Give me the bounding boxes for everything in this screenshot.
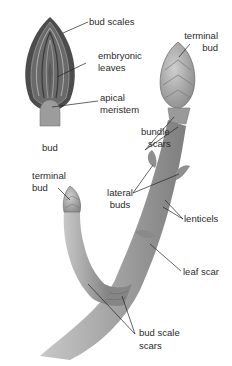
label-bud-scales: bud scales — [89, 16, 134, 27]
bud-section — [25, 17, 75, 126]
label-lateral-buds-line1: lateral — [100, 187, 140, 198]
label-leaf-scar: leaf scar — [183, 266, 219, 277]
label-bud-scale-scars-line2: scars — [139, 340, 162, 351]
label-bud-scale-scars-line1: bud scale — [139, 327, 180, 338]
label-terminal-bud-left-line1: terminal — [32, 170, 66, 181]
label-bud-caption: bud — [42, 142, 58, 153]
label-lateral-buds-line2: buds — [100, 199, 140, 210]
label-terminal-bud-top-line2: bud — [178, 42, 218, 53]
label-apical-meristem-line1: apical — [100, 92, 125, 103]
label-terminal-bud-left-line2: bud — [32, 182, 48, 193]
label-bundle-scars-line1: bundle — [141, 126, 170, 137]
label-embryonic-leaves-line1: embryonic — [98, 50, 142, 61]
label-terminal-bud-top-line1: terminal — [178, 30, 218, 41]
label-bundle-scars-line2: scars — [148, 138, 171, 149]
twig-anatomy-diagram: bud scales embryonic leaves apical meris… — [0, 0, 232, 366]
label-embryonic-leaves-line2: leaves — [98, 62, 125, 73]
label-lenticels: lenticels — [184, 213, 218, 224]
label-apical-meristem-line2: meristem — [100, 104, 139, 115]
